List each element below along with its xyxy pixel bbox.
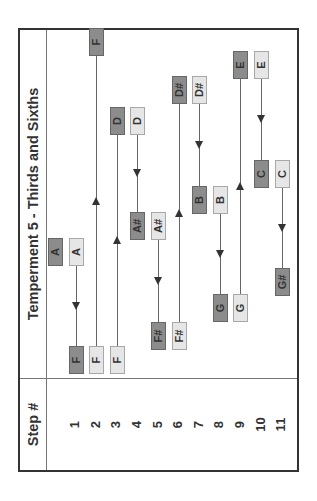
arrow-up-icon xyxy=(113,237,121,245)
note-box-light: G xyxy=(233,294,248,322)
arrow-up-icon xyxy=(92,197,100,205)
step-number: 11 xyxy=(273,379,289,470)
note-box-light: E xyxy=(254,51,269,79)
step-number: 3 xyxy=(108,379,124,470)
note-box-light: B xyxy=(213,186,228,214)
note-box-light: F# xyxy=(172,322,187,350)
step-number: 4 xyxy=(129,379,145,470)
note-box-dark: E xyxy=(233,51,248,79)
arrow-down-icon xyxy=(216,250,224,258)
step-number: 10 xyxy=(253,379,269,470)
note-box-dark: D xyxy=(110,107,125,135)
step-number: 6 xyxy=(170,379,186,470)
note-box-light: D# xyxy=(192,76,207,104)
step-number: 5 xyxy=(150,379,166,470)
step-number: 8 xyxy=(211,379,227,470)
note-box-light: C xyxy=(275,160,290,188)
step-number: 2 xyxy=(88,379,104,470)
arrow-down-icon xyxy=(72,302,80,310)
note-box-light: F xyxy=(110,346,125,374)
arrow-up-icon xyxy=(236,183,244,191)
step-number: 9 xyxy=(232,379,248,470)
note-box-dark: G# xyxy=(275,268,290,296)
note-box-dark: G xyxy=(213,294,228,322)
diagram-title: Temperment 5 - Thirds and Sixths xyxy=(20,30,46,378)
arrow-down-icon xyxy=(133,170,141,178)
arrow-down-icon xyxy=(195,141,203,149)
note-box-dark: F# xyxy=(151,322,166,350)
note-box-dark: F xyxy=(69,346,84,374)
step-number: 1 xyxy=(67,379,83,470)
note-box-light: D xyxy=(130,107,145,135)
arrow-down-icon xyxy=(154,277,162,285)
arrow-down-icon xyxy=(257,116,265,124)
note-box-light: A# xyxy=(151,212,166,240)
arrow-up-icon xyxy=(175,209,183,217)
note-box-dark: C xyxy=(254,160,269,188)
steps-column-header: Step # xyxy=(20,379,46,470)
step-number: 7 xyxy=(191,379,207,470)
arrow-down-icon xyxy=(278,224,286,232)
note-box-dark: D# xyxy=(172,76,187,104)
note-box-light: A xyxy=(69,238,84,266)
note-box-dark: A xyxy=(48,238,63,266)
note-box-light: F xyxy=(89,346,104,374)
temperament-diagram: Step # Temperment 5 - Thirds and Sixths … xyxy=(18,28,299,472)
note-box-dark: B xyxy=(192,186,207,214)
note-box-dark: F xyxy=(89,28,104,56)
note-box-dark: A# xyxy=(130,212,145,240)
